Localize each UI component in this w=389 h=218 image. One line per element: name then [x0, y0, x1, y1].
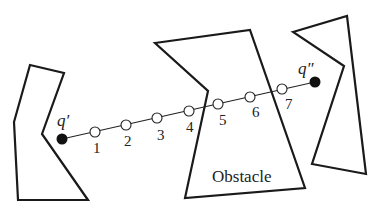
- path-planning-diagram: q′ q″ 1 2 3 4 5 6 7 Obstacle: [0, 0, 389, 218]
- sample-point-2: [121, 120, 131, 130]
- sample-label-4: 4: [186, 119, 194, 135]
- left-obstacle: [14, 65, 88, 200]
- goal-configuration-dot: [310, 77, 321, 88]
- obstacle-label: Obstacle: [212, 167, 271, 186]
- sample-point-4: [184, 106, 194, 116]
- sample-label-3: 3: [157, 127, 165, 143]
- sample-point-1: [90, 127, 100, 137]
- sample-label-1: 1: [93, 140, 101, 156]
- start-configuration-dot: [57, 134, 68, 145]
- start-label: q′: [57, 111, 70, 130]
- goal-label: q″: [298, 59, 315, 78]
- sample-label-6: 6: [252, 104, 260, 120]
- sample-point-6: [245, 92, 255, 102]
- sample-label-7: 7: [285, 96, 293, 112]
- sample-point-5: [213, 99, 223, 109]
- sample-label-2: 2: [124, 133, 132, 149]
- sample-point-3: [152, 113, 162, 123]
- sample-label-5: 5: [219, 112, 227, 128]
- right-obstacle: [293, 16, 366, 174]
- sample-point-7: [277, 84, 287, 94]
